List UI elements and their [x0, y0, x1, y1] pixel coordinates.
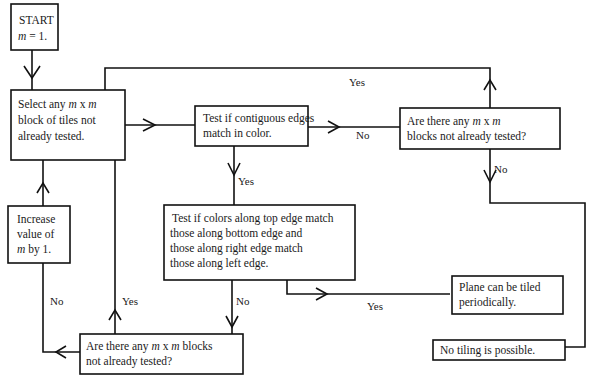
node-any-blocks-bottom: Are there any m x m blocks not already t…	[80, 334, 243, 374]
node-any-blocks-top: Are there any m x m blocks not already t…	[400, 108, 560, 149]
node-start-line2: m = 1.	[18, 30, 47, 42]
node-start-line1: START	[19, 14, 54, 26]
node-no-tiling: No tiling is possible.	[433, 340, 565, 360]
node-select-line1: Select any m x m	[18, 98, 97, 111]
edge-label-edges-yes: Yes	[367, 300, 383, 312]
node-any-blocks-top-line1: Are there any m x m	[407, 115, 501, 128]
node-increase-line3: m by 1.	[17, 243, 51, 256]
node-test-edges-line4: those along left edge.	[170, 257, 268, 270]
node-any-blocks-bottom-line2: not already tested?	[86, 355, 172, 368]
node-increase-m: Increase value of m by 1.	[8, 206, 70, 263]
node-plane-tiled-line2: periodically.	[459, 296, 516, 309]
node-test-contiguous: Test if contiguous edges match in color.	[195, 106, 315, 146]
node-test-edges: Test if colors along top edge match thos…	[164, 205, 355, 280]
node-increase-line2: value of	[17, 228, 55, 240]
edge-label-top-blocks-no: No	[494, 163, 508, 175]
edge-label-contiguous-yes: Yes	[238, 175, 254, 187]
edge-top-blocks-yes-to-select	[105, 68, 490, 108]
node-test-edges-line3: those along right edge match	[170, 242, 303, 255]
edge-bottom-blocks-no-to-increase	[43, 263, 80, 352]
edge-label-edges-no: No	[236, 295, 250, 307]
node-select-block: Select any m x m block of tiles not alre…	[11, 90, 125, 160]
node-select-line3: already tested.	[18, 130, 85, 143]
edge-top-blocks-no-to-no-tiling	[490, 149, 585, 347]
node-test-contiguous-line1: Test if contiguous edges	[203, 112, 315, 125]
node-no-tiling-line1: No tiling is possible.	[440, 344, 535, 357]
node-start: START m = 1.	[11, 4, 58, 50]
node-increase-line1: Increase	[17, 213, 55, 225]
node-plane-tiled-line1: Plane can be tiled	[459, 281, 541, 293]
node-select-line2: block of tiles not	[18, 114, 96, 126]
edge-label-bottom-yes: Yes	[122, 295, 138, 307]
edge-edges-yes-to-plane-tiled	[287, 280, 450, 294]
node-any-blocks-bottom-line1: Are there any m x m blocks	[86, 340, 213, 353]
edge-label-contiguous-no: No	[356, 129, 370, 141]
flowchart: START m = 1. Select any m x m block of t…	[0, 0, 590, 379]
node-test-edges-line2: those along bottom edge and	[170, 227, 302, 240]
node-test-edges-line1: Test if colors along top edge match	[172, 212, 334, 225]
node-plane-tiled: Plane can be tiled periodically.	[452, 276, 563, 314]
node-any-blocks-top-line2: blocks not already tested?	[407, 130, 526, 143]
edge-label-top-yes: Yes	[349, 76, 365, 88]
edge-label-increase-no: No	[50, 295, 64, 307]
node-test-contiguous-line2: match in color.	[203, 127, 272, 139]
